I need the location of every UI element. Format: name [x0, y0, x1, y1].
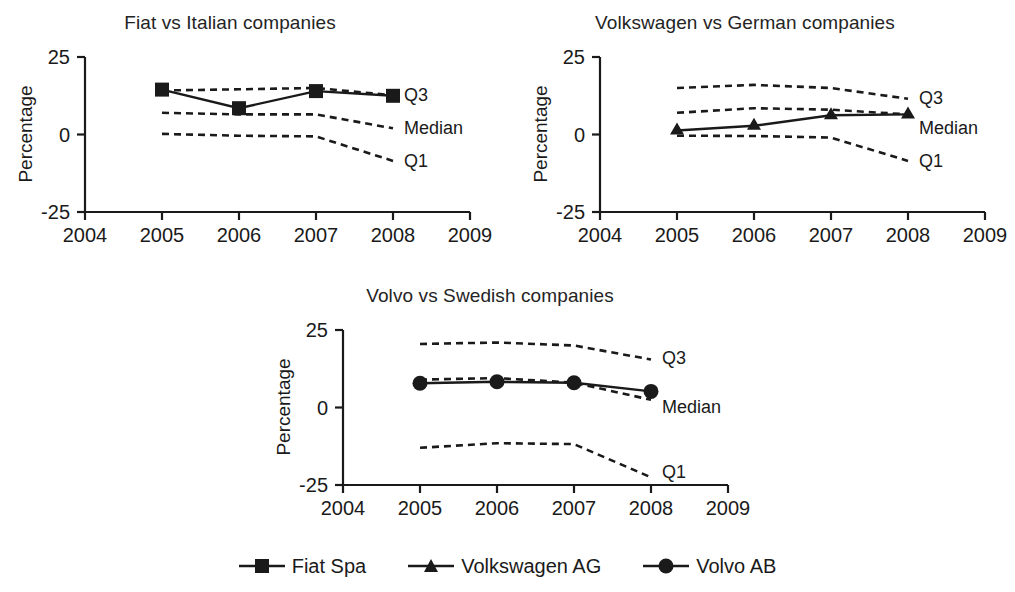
series-label-q1: Q1 — [919, 151, 943, 171]
chart-legend: Fiat Spa Volkswagen AG Volvo AB — [0, 549, 1015, 583]
x-tick-label: 2008 — [629, 497, 674, 519]
data-point-marker — [232, 101, 246, 115]
q3-line — [420, 343, 651, 360]
series-label-median: Median — [662, 397, 721, 417]
y-tick-label: 0 — [574, 124, 585, 146]
y-tick-label: 25 — [48, 46, 70, 68]
y-axis-title: Percentage — [15, 85, 36, 182]
y-tick-label: -25 — [41, 201, 70, 223]
series-line-volvo — [420, 382, 651, 392]
x-tick-label: 2006 — [732, 224, 777, 246]
legend-marker-circle-icon — [643, 557, 689, 575]
legend-item-volkswagen[interactable]: Volkswagen AG — [408, 555, 601, 578]
series-label-q3: Q3 — [404, 85, 428, 105]
y-tick-label: 0 — [317, 397, 328, 419]
y-tick-label: 0 — [59, 124, 70, 146]
data-point-marker — [670, 123, 684, 135]
x-tick-label: 2004 — [578, 224, 623, 246]
series-label-q1: Q1 — [662, 462, 686, 482]
data-point-marker — [386, 89, 400, 103]
data-point-marker — [567, 375, 582, 390]
plot-area-volvo: 25 0 -25 2004 2005 2006 2007 2008 2009 P… — [258, 273, 758, 528]
median-line — [162, 113, 393, 129]
data-point-marker — [490, 374, 505, 389]
q1-line — [420, 443, 651, 477]
y-tick-label: -25 — [556, 201, 585, 223]
legend-marker-triangle-icon — [408, 557, 454, 575]
q1-line — [677, 136, 908, 161]
x-tick-label: 2004 — [321, 497, 366, 519]
x-tick-label: 2009 — [706, 497, 751, 519]
x-tick-label: 2005 — [655, 224, 700, 246]
x-tick-label: 2007 — [552, 497, 597, 519]
data-point-marker — [155, 83, 169, 97]
x-tick-label: 2009 — [963, 224, 1008, 246]
legend-marker-square-icon — [239, 557, 285, 575]
data-point-marker — [901, 106, 915, 118]
data-point-marker — [747, 118, 761, 130]
x-tick-label: 2006 — [475, 497, 520, 519]
x-tick-label: 2006 — [217, 224, 262, 246]
series-label-q3: Q3 — [919, 88, 943, 108]
legend-label-volkswagen: Volkswagen AG — [461, 555, 601, 578]
y-axis-title: Percentage — [530, 85, 551, 182]
x-tick-label: 2007 — [294, 224, 339, 246]
x-tick-label: 2005 — [140, 224, 185, 246]
legend-item-fiat[interactable]: Fiat Spa — [239, 555, 366, 578]
data-point-marker — [644, 384, 659, 399]
x-tick-label: 2004 — [63, 224, 108, 246]
q3-line — [677, 85, 908, 99]
data-point-marker — [413, 376, 428, 391]
x-tick-label: 2008 — [886, 224, 931, 246]
legend-label-fiat: Fiat Spa — [292, 555, 366, 578]
series-line-volkswagen — [677, 114, 908, 130]
x-tick-label: 2005 — [398, 497, 443, 519]
series-label-q1: Q1 — [404, 151, 428, 171]
y-tick-label: -25 — [299, 474, 328, 496]
q1-line — [162, 134, 393, 161]
plot-area-fiat: 25 0 -25 2004 2005 2006 2007 2008 2009 P… — [0, 0, 500, 255]
median-line — [677, 108, 908, 114]
y-axis-title: Percentage — [273, 358, 294, 455]
series-label-q3: Q3 — [662, 348, 686, 368]
series-label-median: Median — [919, 118, 978, 138]
y-tick-label: 25 — [563, 46, 585, 68]
legend-item-volvo[interactable]: Volvo AB — [643, 555, 776, 578]
plot-area-volkswagen: 25 0 -25 2004 2005 2006 2007 2008 2009 P… — [515, 0, 1015, 255]
x-tick-label: 2009 — [448, 224, 493, 246]
x-tick-label: 2007 — [809, 224, 854, 246]
chart-panel-volvo: Volvo vs Swedish companies 25 0 -25 2004… — [258, 273, 758, 528]
chart-panel-volkswagen: Volkswagen vs German companies 25 0 -25 … — [515, 0, 1015, 255]
legend-label-volvo: Volvo AB — [696, 555, 776, 578]
data-point-marker — [309, 84, 323, 98]
chart-panel-fiat: Fiat vs Italian companies 25 0 -25 2004 … — [0, 0, 500, 255]
y-tick-label: 25 — [306, 319, 328, 341]
series-label-median: Median — [404, 118, 463, 138]
x-tick-label: 2008 — [371, 224, 416, 246]
